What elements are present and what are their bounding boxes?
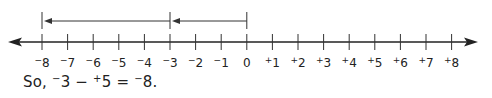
jump-arrows	[42, 12, 247, 29]
tick-label: −3	[162, 55, 177, 70]
caption-equals: =	[111, 73, 134, 91]
tick-label: −1	[214, 55, 229, 70]
tick-label: −5	[111, 55, 126, 70]
caption-a-sign: −	[52, 73, 61, 84]
jump-arrowhead-icon	[44, 18, 52, 24]
caption-b-value: 5	[102, 73, 112, 91]
equation-caption: So, −3 − +5 = −8.	[23, 73, 157, 91]
tick-label: +3	[316, 55, 331, 70]
caption-a-value: 3	[61, 73, 71, 91]
tick-labels: −8−7−6−5−4−3−2−10+1+2+3+4+5+6+7+8	[34, 55, 459, 70]
caption-result-value: 8.	[143, 73, 158, 91]
tick-label: −7	[60, 55, 75, 70]
tick-label: +8	[444, 55, 459, 70]
tick-label: +4	[342, 55, 357, 70]
tick-label: 0	[243, 56, 251, 70]
tick-label: +1	[265, 55, 280, 70]
tick-label: +7	[418, 55, 433, 70]
number-line-axis	[8, 38, 478, 47]
tick-label: −2	[188, 55, 203, 70]
tick-label: −6	[86, 55, 101, 70]
caption-prefix: So,	[23, 73, 52, 91]
caption-operator: −	[70, 73, 93, 91]
tick-label: −8	[34, 55, 49, 70]
caption-b-sign: +	[93, 73, 102, 84]
jump-arrowhead-icon	[172, 18, 180, 24]
tick-label: +5	[367, 55, 382, 70]
tick-label: +2	[290, 55, 305, 70]
caption-result-sign: −	[134, 73, 143, 84]
tick-label: −4	[137, 55, 152, 70]
tick-label: +6	[393, 55, 408, 70]
